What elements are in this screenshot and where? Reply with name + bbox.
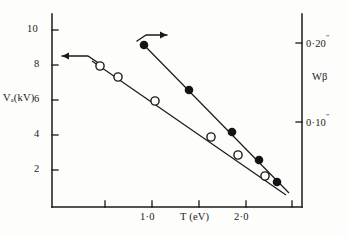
annotation-arrows	[62, 31, 167, 62]
right-y-tick-value-010: 0·10	[306, 117, 326, 128]
x-axis-title: T (eV)	[180, 212, 209, 223]
right-y-axis-ticks	[296, 43, 302, 122]
plot-area	[0, 0, 348, 236]
left-y-axis-ticks	[52, 30, 58, 170]
data-point-filled-2	[185, 86, 194, 95]
right-y-tick-superscript-010: ”	[326, 112, 329, 120]
left-y-tick-label-6: 6	[34, 94, 39, 105]
right-axis-arrow	[137, 31, 167, 41]
figure-root: 10 8 6 4 2 Vₐ(kV) 1·0 2·0 T (eV) 0·20” 0…	[0, 0, 348, 236]
data-point-filled-4	[255, 156, 264, 165]
right-y-tick-superscript-020: ”	[326, 33, 329, 41]
data-point-open-6	[261, 172, 269, 180]
data-point-filled-1	[140, 41, 149, 50]
right-y-tick-label-010: 0·10”	[306, 116, 329, 128]
left-y-tick-label-8: 8	[34, 59, 39, 70]
data-point-open-5	[234, 151, 242, 159]
left-y-tick-label-10: 10	[27, 24, 38, 35]
data-point-filled-5	[273, 178, 282, 187]
left-y-tick-label-2: 2	[34, 164, 39, 175]
right-y-tick-value-020: 0·20	[306, 38, 326, 49]
left-y-tick-label-4: 4	[34, 129, 39, 140]
data-point-open-1	[96, 62, 104, 70]
series-filled-fit-line	[142, 43, 289, 193]
right-y-axis-title: Wβ	[312, 72, 328, 83]
open-circle-markers	[96, 62, 269, 180]
left-axis-arrow	[62, 52, 97, 62]
x-tick-label-10: 1·0	[140, 212, 155, 223]
x-tick-label-20: 2·0	[234, 212, 249, 223]
data-point-open-4	[207, 133, 215, 141]
series-filled-circles	[140, 41, 289, 193]
data-point-filled-3	[228, 128, 237, 137]
data-point-open-2	[114, 73, 122, 81]
left-y-axis-title: Vₐ(kV)	[3, 93, 34, 104]
right-y-tick-label-020: 0·20”	[306, 37, 329, 49]
x-axis-ticks	[105, 201, 292, 207]
series-open-circles	[92, 61, 286, 195]
data-point-open-3	[151, 97, 159, 105]
series-open-fit-line	[92, 61, 286, 195]
